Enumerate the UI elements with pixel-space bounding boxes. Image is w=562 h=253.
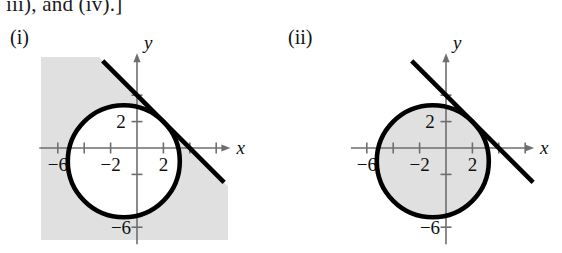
x-axis-label: x: [539, 137, 549, 158]
x-axis-label: x: [235, 137, 245, 158]
y-axis-label: y: [451, 32, 462, 53]
y-axis-arrowhead: [442, 53, 449, 62]
y-axis-label: y: [142, 32, 153, 53]
x-axis-arrowhead: [525, 144, 534, 151]
y-tick-label-1: 2: [116, 111, 126, 132]
x-tick-label-0: −6: [357, 154, 377, 175]
y-axis-arrowhead: [133, 53, 140, 62]
figure-page: iii), and (iv).] (i) (ii) −6−222−6xy−6−2…: [0, 0, 562, 253]
y-tick-label-3: −6: [420, 217, 440, 238]
graph-panel-2: −6−222−6xy: [351, 32, 549, 244]
y-tick-label-3: −6: [111, 217, 131, 238]
graph-panel-1: −6−222−6xy: [39, 32, 245, 244]
x-tick-label-2: −2: [409, 154, 429, 175]
x-tick-label-0: −6: [48, 154, 68, 175]
y-tick-label-1: 2: [425, 111, 435, 132]
x-axis-arrowhead: [221, 144, 230, 151]
x-tick-label-2: −2: [100, 154, 120, 175]
graphs-svg: −6−222−6xy−6−222−6xy: [0, 0, 562, 253]
x-tick-label-3: 2: [468, 154, 478, 175]
x-tick-label-3: 2: [159, 154, 169, 175]
